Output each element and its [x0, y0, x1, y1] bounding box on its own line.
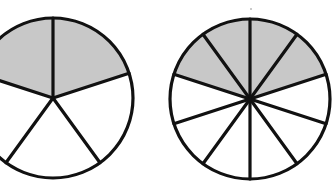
left-circle [0, 18, 133, 178]
stray-speck-mark [250, 8, 252, 10]
fraction-circles-canvas [0, 0, 332, 192]
fraction-circles-figure [0, 0, 332, 192]
right-circle [170, 19, 330, 179]
